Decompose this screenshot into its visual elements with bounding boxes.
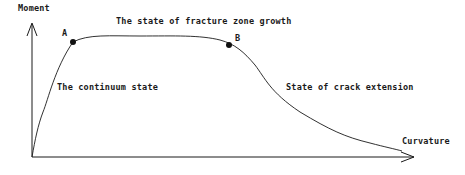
region-label-continuum: The continuum state [57, 82, 158, 92]
moment-curvature-diagram: Moment A B The state of fracture zone gr… [0, 0, 465, 175]
region-label-crack-extension: State of crack extension [286, 82, 414, 92]
y-axis-label: Moment [18, 3, 50, 13]
point-a-label: A [62, 28, 67, 38]
point-b-label: B [235, 33, 240, 43]
point-b-marker [226, 42, 232, 48]
point-a-marker [70, 39, 76, 45]
region-label-fracture-zone: The state of fracture zone growth [116, 16, 291, 26]
moment-curvature-curve [32, 36, 402, 157]
x-axis-label: Curvature [402, 136, 450, 146]
